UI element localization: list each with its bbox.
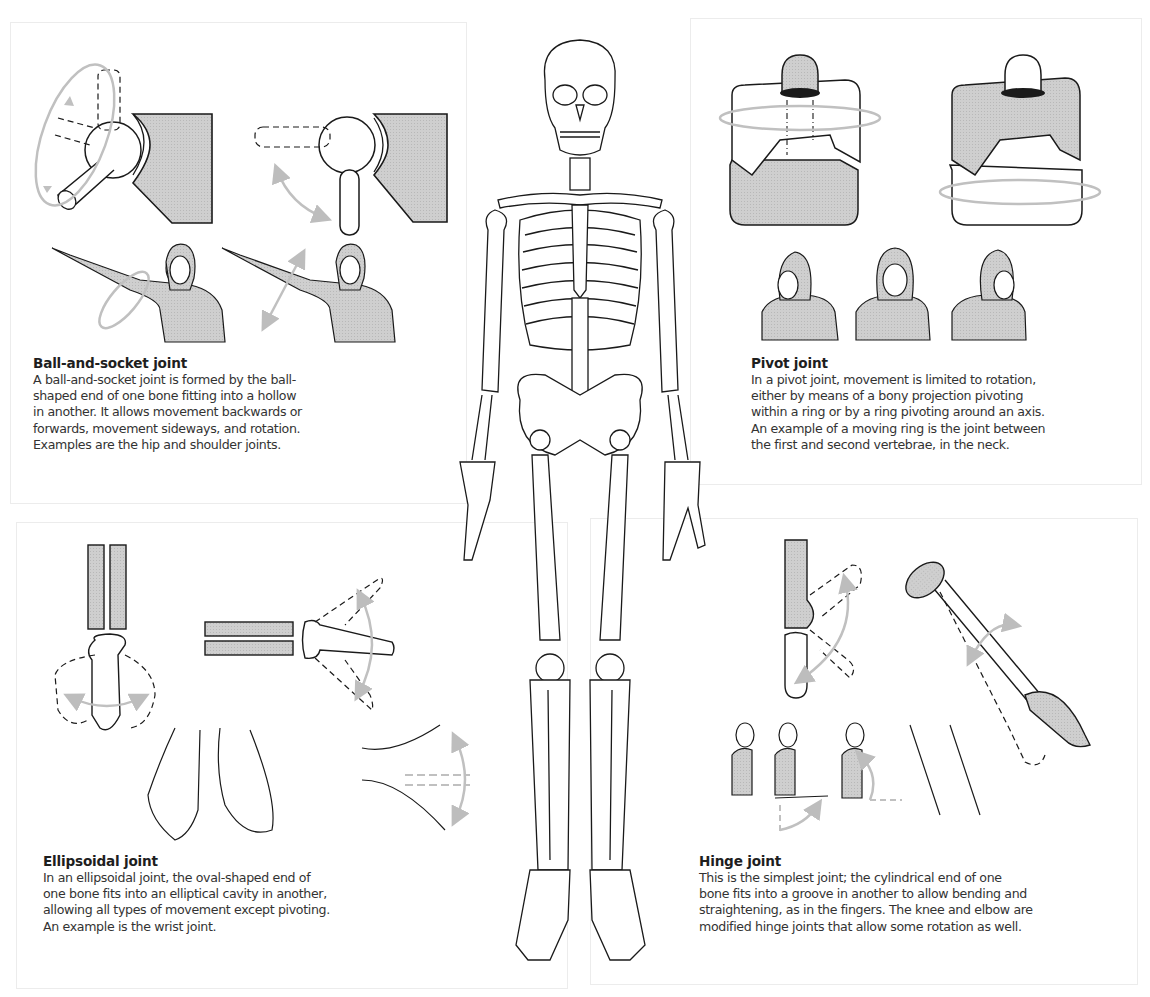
caption-line: modified hinge joints that allow some ro… bbox=[699, 919, 1139, 935]
ellipsoidal-title: Ellipsoidal joint bbox=[43, 853, 423, 870]
caption-line: This is the simplest joint; the cylindri… bbox=[699, 870, 1139, 886]
ellipsoidal-caption: Ellipsoidal joint In an ellipsoidal join… bbox=[43, 853, 423, 935]
hinge-diagram bbox=[680, 500, 1150, 870]
hinge-caption: Hinge joint This is the simplest joint; … bbox=[699, 853, 1139, 935]
skeleton-illustration bbox=[420, 0, 740, 997]
caption-line: in another. It allows movement backwards… bbox=[33, 404, 363, 420]
caption-line: Examples are the hip and shoulder joints… bbox=[33, 437, 363, 453]
caption-line: one bone fits into an elliptical cavity … bbox=[43, 886, 423, 902]
ball-socket-title: Ball-and-socket joint bbox=[33, 355, 363, 372]
caption-line: forwards, movement sideways, and rotatio… bbox=[33, 421, 363, 437]
caption-line: A ball-and-socket joint is formed by the… bbox=[33, 372, 363, 388]
pivot-diagram bbox=[690, 0, 1150, 360]
caption-line: either by means of a bony projection piv… bbox=[751, 388, 1141, 404]
caption-line: within a ring or by a ring pivoting arou… bbox=[751, 404, 1141, 420]
hands-sketch bbox=[148, 725, 445, 840]
caption-line: the first and second vertebrae, in the n… bbox=[751, 437, 1141, 453]
caption-line: An example of a moving ring is the joint… bbox=[751, 421, 1141, 437]
caption-line: allowing all types of movement except pi… bbox=[43, 902, 423, 918]
caption-line: In an ellipsoidal joint, the oval-shaped… bbox=[43, 870, 423, 886]
woman-arm-raised-sideways bbox=[222, 244, 395, 342]
hinge-title: Hinge joint bbox=[699, 853, 1139, 870]
caption-line: In a pivot joint, movement is limited to… bbox=[751, 372, 1141, 388]
ball-socket-caption: Ball-and-socket joint A ball-and-socket … bbox=[33, 355, 363, 453]
caption-line: straightening, as in the fingers. The kn… bbox=[699, 902, 1139, 918]
caption-line: shaped end of one bone fitting into a ho… bbox=[33, 388, 363, 404]
pivot-title: Pivot joint bbox=[751, 355, 1141, 372]
caption-line: bone fits into a groove in another to al… bbox=[699, 886, 1139, 902]
arm-bending-figures bbox=[732, 723, 980, 815]
ellipsoidal-diagram bbox=[0, 500, 480, 870]
ball-socket-diagram bbox=[0, 0, 470, 360]
woman-arm-raised-rotation bbox=[52, 244, 225, 342]
pivot-caption: Pivot joint In a pivot joint, movement i… bbox=[751, 355, 1141, 453]
caption-line: An example is the wrist joint. bbox=[43, 919, 423, 935]
